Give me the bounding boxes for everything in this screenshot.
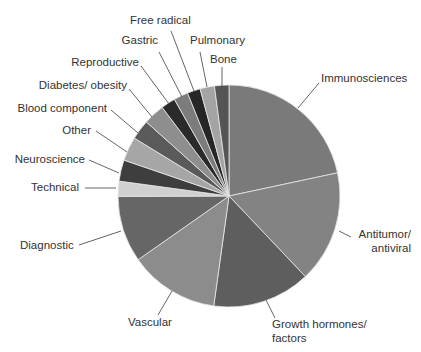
label-vascular: Vascular: [128, 316, 172, 328]
label-bone: Bone: [210, 53, 237, 65]
leader-line-neuroscience: [89, 160, 119, 173]
leader-line-gastric: [159, 52, 182, 97]
label-other: Other: [62, 124, 91, 136]
leader-line-antitumor-antiviral: [339, 231, 351, 237]
leader-line-diagnostic: [79, 231, 121, 245]
pie-slices: [118, 85, 340, 307]
label-diagnostic: Diagnostic: [20, 239, 74, 251]
leader-line-other: [96, 131, 127, 152]
label-pulmonary: Pulmonary: [190, 34, 245, 46]
label-diabetes-obesity: Diabetes/ obesity: [39, 79, 127, 91]
label-technical: Technical: [31, 181, 79, 193]
leader-line-growth-hormones-factors: [266, 300, 275, 318]
label-free-radical: Free radical: [130, 14, 191, 26]
label-growth-hormones-factors: Growth hormones/factors: [272, 318, 367, 344]
label-gastric: Gastric: [122, 34, 159, 46]
label-neuroscience: Neuroscience: [15, 153, 85, 165]
label-immunosciences: Immunosciences: [321, 72, 408, 84]
leader-line-vascular: [158, 291, 172, 315]
leader-line-blood-component: [111, 110, 138, 133]
label-antitumor-antiviral: Antitumor/antiviral: [359, 228, 412, 254]
leader-line-reproductive: [141, 66, 169, 104]
leader-line-immunosciences: [298, 83, 319, 108]
leader-line-diabetes-obesity: [129, 89, 152, 117]
pie-chart: ImmunosciencesAntitumor/antiviralGrowth …: [0, 0, 421, 352]
leader-line-pulmonary: [200, 52, 207, 87]
label-blood-component: Blood component: [17, 102, 107, 114]
label-reproductive: Reproductive: [71, 56, 139, 68]
